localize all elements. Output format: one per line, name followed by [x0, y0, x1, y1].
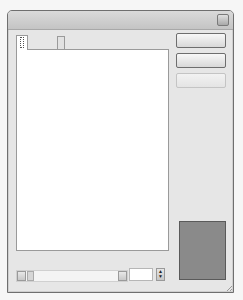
color-honeycomb[interactable] — [17, 50, 168, 250]
slider-right-arrow-icon[interactable] — [118, 271, 127, 281]
tab-standard[interactable] — [16, 35, 28, 50]
cancel-button[interactable] — [176, 53, 226, 68]
spinner-down-icon[interactable]: ▼ — [158, 273, 163, 279]
slider-left-arrow-icon[interactable] — [17, 271, 26, 281]
tab-custom[interactable] — [57, 36, 65, 50]
transparency-slider[interactable] — [16, 270, 128, 282]
standard-panel — [16, 49, 169, 251]
resize-grip-icon[interactable] — [226, 285, 232, 291]
transparency-input[interactable] — [129, 268, 153, 281]
slider-thumb[interactable] — [27, 271, 34, 281]
close-button[interactable] — [217, 14, 229, 26]
transparency-spinner[interactable]: ▲▼ — [156, 268, 165, 281]
color-preview-swatch — [179, 221, 226, 280]
ok-button[interactable] — [176, 33, 226, 48]
preview-button — [176, 73, 226, 88]
title-bar[interactable] — [8, 11, 233, 30]
colors-dialog: ▲▼ — [7, 10, 234, 293]
